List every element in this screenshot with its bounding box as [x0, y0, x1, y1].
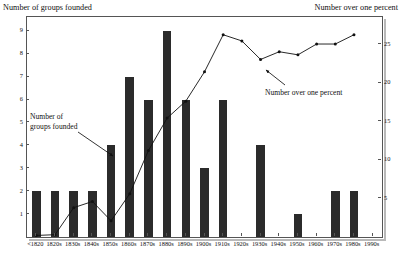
plot-inner [27, 17, 382, 237]
line-marker [110, 219, 113, 222]
x-tick-mark [91, 233, 92, 236]
line-marker [334, 43, 337, 46]
y-tick-mark-left [26, 53, 29, 54]
line-marker [240, 39, 243, 42]
line-marker [203, 70, 206, 73]
x-tick-mark [260, 233, 261, 236]
line-path [36, 35, 354, 236]
y-tick-label-left: 6 [5, 95, 23, 102]
line-marker [128, 192, 131, 195]
x-tick-mark [316, 233, 317, 236]
line-marker [166, 117, 169, 120]
annotation-bars-line1: Number of [30, 112, 77, 122]
line-marker [352, 33, 355, 36]
y-tick-mark-left [26, 30, 29, 31]
y-tick-label-left: 4 [5, 141, 23, 148]
annotation-bars: Number of groups founded [30, 112, 77, 131]
x-tick-mark [129, 233, 130, 236]
line-series-layer [27, 17, 382, 237]
y-tick-mark-right [378, 82, 381, 83]
y-tick-mark-left [26, 190, 29, 191]
line-marker [222, 33, 225, 36]
x-tick-mark [35, 233, 36, 236]
y-tick-label-left: 7 [5, 72, 23, 79]
line-marker [147, 149, 150, 152]
x-tick-mark [297, 233, 298, 236]
y-tick-mark-left [26, 76, 29, 77]
annotation-line-line1: Number over one percent [265, 88, 342, 98]
x-tick-label: 1990s [361, 240, 383, 247]
y-tick-mark-left [26, 167, 29, 168]
y-tick-mark-right [378, 120, 381, 121]
x-tick-mark [334, 233, 335, 236]
y-tick-mark-right [378, 43, 381, 44]
x-tick-mark [222, 233, 223, 236]
x-tick-mark [372, 233, 373, 236]
x-tick-mark [278, 233, 279, 236]
y-tick-label-left: 3 [5, 164, 23, 171]
y-tick-label-left: 2 [5, 187, 23, 194]
y-tick-label-left: 9 [5, 26, 23, 33]
x-tick-mark [73, 233, 74, 236]
line-marker [91, 200, 94, 203]
y-tick-mark-left [26, 99, 29, 100]
line-marker [72, 206, 75, 209]
x-tick-mark [147, 233, 148, 236]
y-tick-mark-left [26, 121, 29, 122]
line-marker [278, 50, 281, 53]
line-marker [296, 53, 299, 56]
line-marker [315, 43, 318, 46]
y-tick-mark-right [378, 197, 381, 198]
x-tick-mark [185, 233, 186, 236]
plot-area [26, 16, 383, 238]
y-tick-mark-left [26, 213, 29, 214]
line-marker [184, 100, 187, 103]
x-tick-mark [353, 233, 354, 236]
x-tick-mark [166, 233, 167, 236]
x-tick-mark [241, 233, 242, 236]
y-tick-label-right: 25 [384, 40, 402, 47]
x-tick-mark [54, 233, 55, 236]
y-tick-label-right: 5 [384, 194, 402, 201]
right-axis-title: Number over one percent [315, 3, 398, 13]
annotation-line: Number over one percent [265, 88, 342, 98]
y-tick-label-right: 15 [384, 117, 402, 124]
y-tick-mark-left [26, 144, 29, 145]
y-tick-label-right: 20 [384, 78, 402, 85]
x-tick-mark [204, 233, 205, 236]
y-tick-mark-right [378, 159, 381, 160]
y-tick-label-left: 8 [5, 49, 23, 56]
line-marker [259, 58, 262, 61]
x-tick-mark [110, 233, 111, 236]
y-tick-label-left: 1 [5, 210, 23, 217]
chart-container: Number of groups founded Number over one… [0, 0, 402, 255]
y-tick-label-right: 10 [384, 155, 402, 162]
y-tick-label-left: 5 [5, 118, 23, 125]
annotation-bars-line2: groups founded [30, 122, 77, 132]
left-axis-title: Number of groups founded [3, 3, 92, 13]
